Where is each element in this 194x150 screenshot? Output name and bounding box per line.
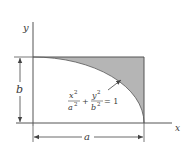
- svg-text:= 1: = 1: [104, 97, 118, 106]
- b-dimension-label: b: [16, 83, 23, 96]
- ellipse-area-diagram: y x b a x 2 a 2 + y 2 b 2 = 1: [0, 0, 194, 150]
- svg-text:2: 2: [97, 89, 101, 95]
- ellipse-equation: x 2 a 2 + y 2 b 2 = 1: [68, 89, 118, 112]
- y-axis-label: y: [22, 22, 29, 33]
- svg-text:2: 2: [74, 101, 78, 107]
- equation-leader-arrow: [108, 80, 121, 90]
- svg-text:2: 2: [74, 89, 78, 95]
- svg-text:+: +: [82, 97, 89, 106]
- svg-text:b: b: [91, 103, 96, 112]
- svg-text:a: a: [68, 103, 73, 112]
- svg-text:2: 2: [97, 101, 101, 107]
- shaded-region: [33, 57, 144, 123]
- x-axis-label: x: [175, 123, 180, 133]
- a-dimension-label: a: [84, 131, 90, 142]
